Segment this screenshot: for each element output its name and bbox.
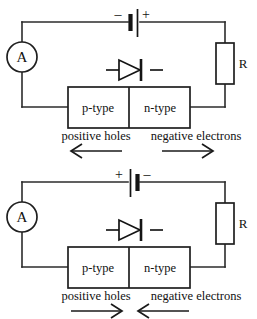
battery-symbol bbox=[131, 169, 138, 197]
battery-negative-sign: – bbox=[143, 167, 152, 182]
p-type-label: p-type bbox=[82, 101, 114, 115]
forward-bias-circuit: – + A R p-type bbox=[0, 0, 257, 159]
battery-negative-sign: – bbox=[114, 7, 123, 22]
battery-symbol bbox=[131, 9, 138, 37]
resistor bbox=[216, 203, 234, 244]
positive-holes-arrow-right bbox=[71, 304, 122, 318]
resistor-label: R bbox=[239, 56, 248, 71]
reverse-bias-circuit: + – A R p-type n-type positive bbox=[0, 160, 257, 319]
battery-positive-sign: + bbox=[115, 167, 123, 182]
negative-electrons-arrow-left bbox=[138, 304, 189, 318]
battery-positive-sign: + bbox=[142, 7, 150, 22]
diode-symbol bbox=[106, 59, 163, 81]
resistor bbox=[216, 43, 234, 84]
negative-electrons-label: negative electrons bbox=[151, 289, 242, 303]
ammeter-label: A bbox=[17, 49, 28, 65]
positive-holes-arrow-left bbox=[71, 144, 122, 158]
ammeter-label: A bbox=[17, 209, 28, 225]
resistor-label: R bbox=[239, 216, 248, 231]
p-type-label: p-type bbox=[82, 261, 114, 275]
n-type-label: n-type bbox=[144, 101, 176, 115]
n-type-label: n-type bbox=[144, 261, 176, 275]
diode-symbol bbox=[106, 219, 163, 241]
negative-electrons-arrow-right bbox=[162, 144, 213, 158]
diagram-page: – + A R p-type bbox=[0, 0, 257, 319]
positive-holes-label: positive holes bbox=[61, 289, 130, 303]
positive-holes-label: positive holes bbox=[61, 129, 130, 143]
negative-electrons-label: negative electrons bbox=[151, 129, 242, 143]
